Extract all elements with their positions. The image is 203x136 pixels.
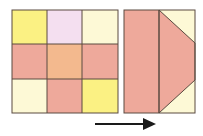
cell-r3c3 (82, 79, 118, 113)
diagram-canvas (0, 0, 203, 136)
nine-patch-grid (12, 10, 118, 113)
cell-r3c1 (12, 79, 47, 113)
cell-r2c2 (47, 44, 82, 79)
cell-r3c2 (47, 79, 82, 113)
cell-r2c3 (82, 44, 118, 79)
cell-r1c3 (82, 10, 118, 44)
cell-r1c2 (47, 10, 82, 44)
result-block (124, 10, 195, 113)
left-rectangle-piece (124, 10, 159, 113)
cell-r2c1 (12, 44, 47, 79)
cell-r1c1 (12, 10, 47, 44)
arrow-right-icon (95, 118, 156, 130)
